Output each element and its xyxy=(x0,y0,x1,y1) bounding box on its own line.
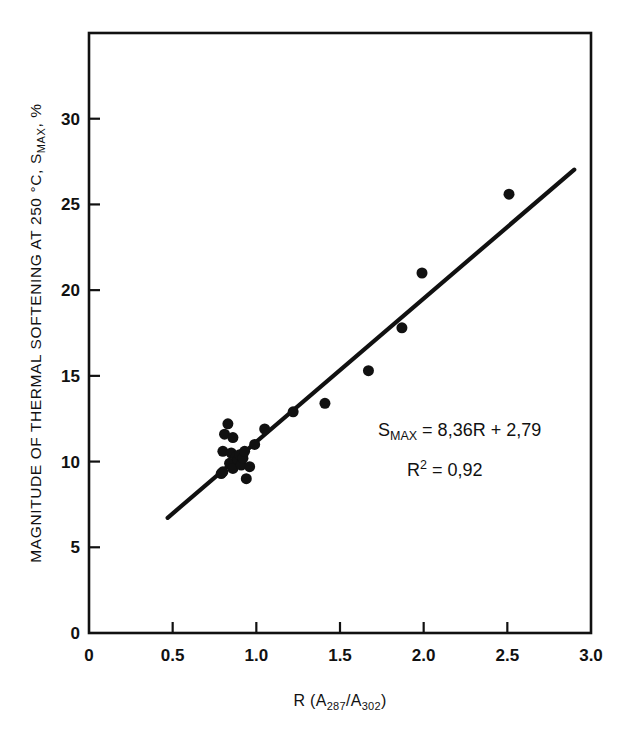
y-tick-label-5: 5 xyxy=(71,538,80,557)
x-tick-label-0.5: 0.5 xyxy=(161,646,185,665)
data-point xyxy=(239,446,250,457)
data-point xyxy=(363,365,374,376)
x-axis-ticks xyxy=(173,622,508,633)
data-point xyxy=(416,268,427,279)
y-axis-ticks xyxy=(89,119,100,548)
scatter-plot-svg: 00.51.01.52.02.53.0 051015202530 SMAX = … xyxy=(0,0,632,741)
x-tick-label-3.0: 3.0 xyxy=(579,646,603,665)
data-point xyxy=(396,322,407,333)
data-point xyxy=(222,418,233,429)
data-point xyxy=(227,432,238,443)
x-tick-label-2.5: 2.5 xyxy=(496,646,520,665)
y-tick-label-25: 25 xyxy=(61,195,80,214)
data-point xyxy=(319,398,330,409)
data-point xyxy=(288,406,299,417)
x-tick-label-1.5: 1.5 xyxy=(328,646,352,665)
y-tick-label-15: 15 xyxy=(61,367,80,386)
data-point xyxy=(217,466,228,477)
plot-frame xyxy=(89,33,591,633)
y-tick-label-10: 10 xyxy=(61,453,80,472)
data-point xyxy=(504,189,515,200)
y-tick-label-20: 20 xyxy=(61,281,80,300)
equation-annotation: SMAX = 8,36R + 2,79 xyxy=(378,420,541,443)
x-tick-label-2.0: 2.0 xyxy=(412,646,436,665)
x-axis-title: R (A287/A302) xyxy=(293,692,386,712)
data-point xyxy=(259,424,270,435)
data-point xyxy=(244,461,255,472)
data-point xyxy=(249,439,260,450)
figure-root: 00.51.01.52.02.53.0 051015202530 SMAX = … xyxy=(0,0,632,741)
y-tick-label-30: 30 xyxy=(61,110,80,129)
x-tick-label-1.0: 1.0 xyxy=(245,646,269,665)
data-point xyxy=(241,473,252,484)
x-axis-tick-labels: 00.51.01.52.02.53.0 xyxy=(84,646,603,665)
y-axis-title: MAGNITUDE OF THERMAL SOFTENING AT 250 °C… xyxy=(27,103,47,562)
y-axis-tick-labels: 051015202530 xyxy=(61,110,80,643)
y-tick-label-0: 0 xyxy=(71,624,80,643)
x-tick-label-0: 0 xyxy=(84,646,93,665)
r-squared-annotation: R2 = 0,92 xyxy=(407,458,483,480)
